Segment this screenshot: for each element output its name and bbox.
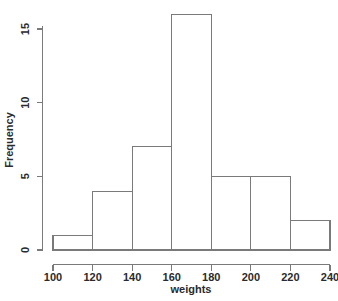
x-axis-tick-label: 120 [83,271,101,283]
histogram-bar [290,221,330,250]
histogram-bar [172,14,212,250]
y-axis-title: Frequency [3,111,15,168]
x-axis-tick-label: 160 [163,271,181,283]
histogram-screenshot: 0 5 10 15 Frequency 100 120 140 160 180 … [0,0,338,301]
x-axis: 100 120 140 160 180 200 220 240 weights [44,265,338,296]
y-axis-tick-label: 10 [19,97,31,109]
x-axis-tick-label: 240 [321,271,338,283]
bars-group [53,14,330,250]
y-axis-tick-label: 5 [19,173,31,179]
histogram-bar [53,235,93,250]
x-axis-tick-label: 100 [44,271,62,283]
histogram-bar [132,147,172,250]
histogram-bar [211,176,251,250]
x-axis-tick-label: 220 [281,271,299,283]
y-axis: 0 5 10 15 Frequency [3,23,43,253]
x-axis-tick-label: 140 [123,271,141,283]
x-axis-tick-label: 180 [202,271,220,283]
y-axis-tick-label: 0 [19,247,31,253]
y-axis-tick-label: 15 [19,23,31,35]
histogram-plot: 0 5 10 15 Frequency 100 120 140 160 180 … [0,0,338,301]
x-axis-tick-label: 200 [242,271,260,283]
x-axis-title: weights [170,283,212,295]
histogram-bar [93,191,133,250]
histogram-bar [251,176,291,250]
